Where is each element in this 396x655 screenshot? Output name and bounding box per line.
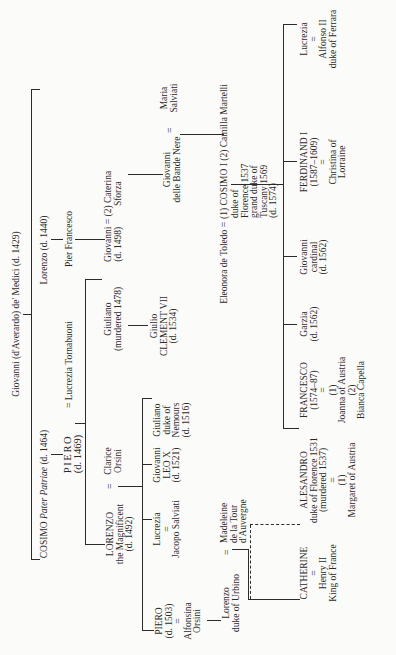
connector: [85, 279, 102, 280]
alfonsina-surname: Orsini: [193, 595, 203, 647]
margaret-of-austria: Margaret of Austria: [348, 430, 358, 530]
lucrezia-salviati: Lucrezia = Jacopo Salviati: [153, 493, 182, 565]
marriage-sign: =: [166, 128, 176, 133]
giuliano-nemours: Giuliano duke of Nemours (d. 1516): [153, 397, 191, 443]
lucrezia-tornabuoni: Lucrezia Tornabuoni: [64, 321, 74, 400]
madeleine-place: d'Auvergne: [239, 495, 249, 555]
lorenzo-magnificent: LORENZO the Magnificent (d. 1492): [106, 488, 135, 580]
connector: [283, 256, 297, 257]
bianca-capella: Bianca Capella: [357, 345, 367, 435]
connector: [207, 620, 221, 621]
connector: [283, 161, 297, 162]
cosimo-name: COSIMO: [39, 521, 49, 558]
piero-1469: PIERO (d. 1469): [63, 429, 82, 479]
connector: [118, 486, 142, 487]
duke-of-ferrara: duke of Ferrara: [329, 0, 339, 80]
giovanni-1498-dates: (d. 1498): [114, 227, 124, 262]
cosimo-pater-patriae: COSIMO Pater Patriae (d. 1464): [40, 389, 50, 599]
giulio-clement-vii: Giulio CLEMENT VII (d. 1534): [150, 280, 179, 372]
giuliano-1478: Giuliano (murdered 1478): [104, 283, 123, 355]
connector: [142, 464, 152, 465]
alesandro: ALESANDRO duke of Florence 1531 (murdere…: [300, 430, 357, 530]
connector: [128, 325, 148, 326]
lorenzo-magnificent-dates: (d. 1492): [125, 488, 135, 580]
giovanni-leo-x: Giovanni LEO X (d. 1521): [153, 442, 182, 488]
garzia: Garzia (d. 1562): [300, 298, 319, 350]
marriage-sign: =: [223, 550, 233, 555]
root-giovanni-averardo: Giovanni (d'Averardo) de' Medici (d. 142…: [12, 199, 22, 429]
connector: [248, 599, 300, 600]
catherine-de-medici: CATHERINE = Henry II King of France: [300, 533, 338, 613]
connector: [283, 24, 297, 25]
lorenzo-urbino-title: duke of Urbino: [232, 563, 242, 643]
giuliano-nemours-dates: (d. 1516): [182, 397, 192, 443]
jacopo-salviati: Jacopo Salviati: [172, 493, 182, 565]
lorenzo-1440: Lorenzo (d. 1440): [40, 210, 50, 290]
camilla-martelli: (2) Camilla Martelli: [219, 84, 229, 161]
lucrezia-ferrara: Lucrezia = Alfonso II duke of Ferrara: [300, 0, 338, 80]
illegitimacy-connector: [250, 524, 300, 525]
giovanni-bande-epithet: delle Bande Nere: [173, 132, 183, 207]
connector: [85, 280, 86, 545]
connector: [142, 630, 154, 631]
connector: [85, 544, 105, 545]
connector: [231, 184, 283, 185]
piero-spouse: = Lucrezia Tornabuoni: [65, 302, 75, 427]
francesco: FRANCESCO (1574–87) = (1) Joanna of Aust…: [300, 345, 367, 435]
piero-dates: (d. 1469): [73, 429, 83, 479]
cosimo-i-details: duke of Florence 1537 grand duke of Tusc…: [231, 138, 279, 218]
marriage-sign: =: [106, 484, 116, 489]
ferdinand-i: FERDINAND I (1587–1609) = Christina of L…: [300, 117, 348, 207]
lorenzo-dates: (d. 1440): [39, 216, 49, 251]
illegitimacy-connector: [250, 525, 251, 599]
family-tree-diagram: Giovanni (d'Averardo) de' Medici (d. 142…: [0, 0, 396, 655]
king-of-france: King of France: [329, 533, 339, 613]
giovanni-cardinal: Giovanni cardinal (d. 1562): [300, 231, 329, 283]
marriage-sign: =: [104, 219, 114, 224]
maria-surname: Salviati: [170, 75, 180, 135]
lorenzo-name: Lorenzo: [39, 253, 49, 285]
connector: [180, 134, 224, 135]
lorenzo-urbino: Lorenzo duke of Urbino: [222, 563, 241, 643]
giovanni-1498: Giovanni (d. 1498) = (2) Caterina Sforza: [104, 142, 123, 262]
connector: [75, 239, 105, 240]
cosimo-dates: (d. 1464): [39, 430, 49, 465]
giovanni-bande-nere: Giovanni delle Bande Nere: [163, 132, 182, 207]
eleonora-name: Eleonora de Toledo: [219, 230, 229, 304]
piero-1503: PIERO (d. 1503) = Alfonsina Orsini: [155, 595, 203, 647]
cosimo-i-name: (1) COSIMO I: [219, 163, 229, 219]
marriage-sign: =: [219, 222, 229, 227]
connector: [283, 25, 284, 429]
cosimo-epithet: Pater Patriae: [39, 467, 49, 519]
connector: [232, 549, 248, 550]
pier-francesco: Pier Francesco: [65, 203, 75, 275]
connector: [23, 314, 31, 315]
cosimo-i-dates: (d. 1574): [269, 138, 279, 218]
connector: [51, 239, 63, 240]
connector: [142, 398, 152, 399]
caterina-surname: Sforza: [114, 171, 124, 217]
connector: [142, 399, 143, 631]
connector: [248, 549, 249, 600]
connector: [283, 324, 297, 325]
connector: [75, 423, 85, 424]
eleonora-de-toledo: Eleonora de Toledo =: [220, 222, 230, 337]
giulio-dates: (d. 1534): [169, 280, 179, 372]
cosimo-i: (1) COSIMO I (2) Camilla Martelli: [220, 19, 230, 219]
connector: [283, 428, 299, 429]
maria-salviati: = Maria Salviati: [160, 75, 179, 135]
marriage-sign: =: [64, 403, 74, 408]
garzia-dates: (d. 1562): [310, 298, 320, 350]
lorraine: Lorraine: [338, 117, 348, 207]
giovanni-cardinal-dates: (d. 1562): [319, 231, 329, 283]
connector: [31, 90, 32, 560]
madeleine-auvergne: = Madeleine de la Tour d'Auvergne: [220, 495, 249, 555]
connector: [142, 519, 152, 520]
clarice-surname: Orsini: [114, 441, 124, 489]
connector: [128, 174, 163, 175]
connector: [31, 89, 40, 90]
giovanni-leo-dates: (d. 1521): [172, 442, 182, 488]
giuliano-dates: (murdered 1478): [114, 283, 124, 355]
connector: [31, 559, 40, 560]
clarice-orsini: = Clarice Orsini: [104, 441, 123, 489]
